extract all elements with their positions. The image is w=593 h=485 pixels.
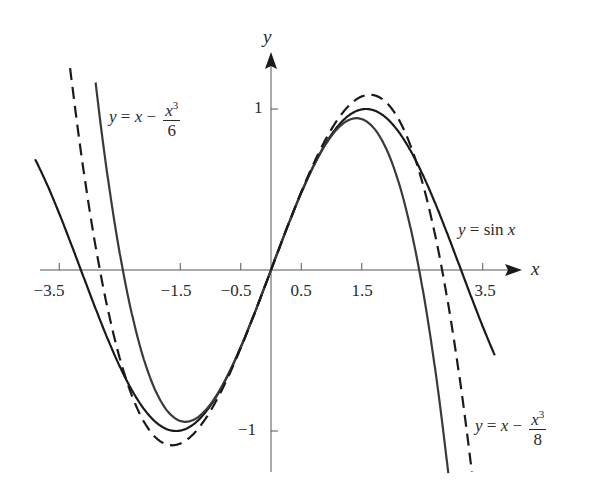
annotation-sin: y = sin x [458, 220, 515, 240]
x-tick-label: 1.5 [351, 281, 372, 301]
x-tick-label: 3.5 [474, 281, 495, 301]
x-tick-label: −3.5 [34, 281, 65, 301]
x-axis-label: x [531, 258, 539, 280]
x-tick-label: 0.5 [290, 281, 311, 301]
y-axis-label: y [263, 26, 271, 48]
curves [35, 68, 495, 473]
y-tick-label: −1 [238, 420, 256, 440]
annotation-cubic8: y = x − x38 [475, 405, 546, 450]
x-tick-label: −1.5 [161, 281, 192, 301]
y-tick-label: 1 [254, 98, 263, 118]
annotation-cubic6: y = x − x36 [109, 96, 180, 141]
x-tick-label: −0.5 [221, 281, 252, 301]
